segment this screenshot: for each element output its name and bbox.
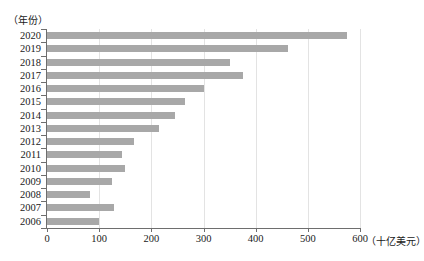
bar-row xyxy=(47,135,360,148)
y-axis-title: （年份） xyxy=(8,12,48,27)
bar-row xyxy=(47,69,360,82)
y-axis-tick-label: 2015 xyxy=(1,95,41,108)
y-axis-tick-label: 2010 xyxy=(1,162,41,175)
y-axis-tick xyxy=(41,228,46,229)
x-axis-title: （十亿美元） xyxy=(366,233,424,248)
bar-row xyxy=(47,215,360,228)
x-axis-tick xyxy=(204,228,205,232)
y-axis-tick-label: 2017 xyxy=(1,69,41,82)
y-axis-tick xyxy=(41,82,46,83)
gridline xyxy=(360,29,361,228)
bar xyxy=(47,178,112,185)
x-axis-tick xyxy=(308,228,309,232)
y-axis-tick-label: 2014 xyxy=(1,109,41,122)
bar-row xyxy=(47,162,360,175)
y-axis-tick-label: 2011 xyxy=(1,148,41,161)
x-axis-tick-label: 300 xyxy=(196,233,212,244)
y-axis-tick-label: 2012 xyxy=(1,135,41,148)
y-axis-tick xyxy=(41,122,46,123)
bar-row xyxy=(47,42,360,55)
y-axis-tick-label: 2020 xyxy=(1,29,41,42)
bar xyxy=(47,138,134,145)
x-axis-tick-label: 0 xyxy=(44,233,49,244)
y-axis-tick-label: 2018 xyxy=(1,56,41,69)
bar xyxy=(47,218,99,225)
y-axis-category-labels: 2020201920182017201620152014201320122011… xyxy=(0,29,41,228)
x-axis-tick xyxy=(47,228,48,232)
bar-row xyxy=(47,148,360,161)
bar xyxy=(47,204,114,211)
bar-row xyxy=(47,95,360,108)
bar-row xyxy=(47,109,360,122)
bar xyxy=(47,191,90,198)
y-axis-tick xyxy=(41,188,46,189)
bar xyxy=(47,125,159,132)
bar-row xyxy=(47,82,360,95)
bar-row xyxy=(47,56,360,69)
bar xyxy=(47,98,185,105)
y-axis-tick-label: 2016 xyxy=(1,82,41,95)
bar-row xyxy=(47,29,360,42)
y-axis-tick xyxy=(41,135,46,136)
x-axis-tick-label: 400 xyxy=(248,233,264,244)
x-axis-tick xyxy=(151,228,152,232)
x-axis-tick xyxy=(360,228,361,232)
x-axis-tick-label: 500 xyxy=(300,233,316,244)
bar xyxy=(47,151,122,158)
bar xyxy=(47,59,230,66)
bar xyxy=(47,85,204,92)
x-axis-tick-label: 200 xyxy=(143,233,159,244)
y-axis-tick xyxy=(41,95,46,96)
y-axis-tick xyxy=(41,162,46,163)
y-axis-tick-label: 2019 xyxy=(1,42,41,55)
y-axis-tick xyxy=(41,29,46,30)
bar xyxy=(47,45,288,52)
plot-area xyxy=(47,29,360,228)
bar xyxy=(47,112,175,119)
y-axis-tick xyxy=(41,175,46,176)
bar xyxy=(47,72,243,79)
y-axis-tick xyxy=(41,215,46,216)
x-axis-tick xyxy=(256,228,257,232)
y-axis-tick xyxy=(41,69,46,70)
y-axis-tick xyxy=(41,148,46,149)
x-axis-tick-labels: 0100200300400500600 xyxy=(0,233,403,251)
bar-row xyxy=(47,122,360,135)
bar xyxy=(47,32,347,39)
bar-row xyxy=(47,175,360,188)
y-axis-tick xyxy=(41,56,46,57)
y-axis-tick-label: 2008 xyxy=(1,188,41,201)
y-axis-tick xyxy=(41,109,46,110)
y-axis-tick-label: 2013 xyxy=(1,122,41,135)
x-axis-tick xyxy=(99,228,100,232)
bar-row xyxy=(47,188,360,201)
bar xyxy=(47,165,125,172)
y-axis-tick-label: 2007 xyxy=(1,201,41,214)
y-axis-tick-label: 2006 xyxy=(1,215,41,228)
y-axis-tick-label: 2009 xyxy=(1,175,41,188)
y-axis-tick xyxy=(41,42,46,43)
y-axis-tick xyxy=(41,201,46,202)
x-axis-tick-label: 100 xyxy=(91,233,107,244)
bar-row xyxy=(47,201,360,214)
